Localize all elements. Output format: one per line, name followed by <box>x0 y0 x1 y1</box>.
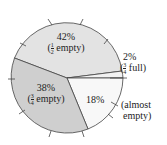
label-2-pct: 2% <box>120 51 146 62</box>
label-42: 42% (12 empty) <box>43 31 89 55</box>
label-18-note-line1: (almost <box>121 99 151 110</box>
label-38: 38% (34 empty) <box>21 82 71 106</box>
label-2-note: (34 full) <box>120 62 146 75</box>
label-42-pct: 42% <box>43 31 89 42</box>
label-2: 2% (34 full) <box>120 51 146 75</box>
label-18-note: (almost empty) <box>121 99 151 121</box>
label-18-pct: 18% <box>86 94 104 105</box>
label-38-pct: 38% <box>21 82 71 93</box>
label-38-note: (34 empty) <box>21 93 71 106</box>
label-42-note: (12 empty) <box>43 42 89 55</box>
label-18-note-line2: empty) <box>121 110 151 121</box>
